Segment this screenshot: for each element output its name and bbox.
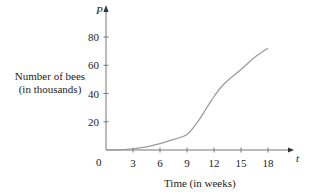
y-axis-title-line2: (in thousands) (0, 83, 100, 96)
origin-label: 0 (96, 156, 102, 168)
x-axis-title: Time (in weeks) (164, 177, 236, 189)
y-axis-arrow-icon (104, 5, 109, 12)
population-curve (106, 48, 268, 150)
y-axis-title-line1: Number of bees (0, 70, 100, 83)
x-axis-arrow-icon (288, 148, 294, 153)
x-tick-label: 12 (209, 157, 220, 169)
chart-plot: 20406080369121518 (0, 0, 309, 192)
x-tick-label: 9 (184, 157, 190, 169)
y-tick-label: 80 (88, 31, 100, 43)
x-tick-label: 3 (130, 157, 136, 169)
x-tick-label: 15 (236, 157, 248, 169)
x-axis-variable-label: t (296, 152, 299, 164)
y-axis-variable-label: P (96, 4, 103, 16)
y-tick-label: 20 (88, 116, 100, 128)
x-tick-label: 6 (157, 157, 163, 169)
x-tick-label: 18 (263, 157, 275, 169)
